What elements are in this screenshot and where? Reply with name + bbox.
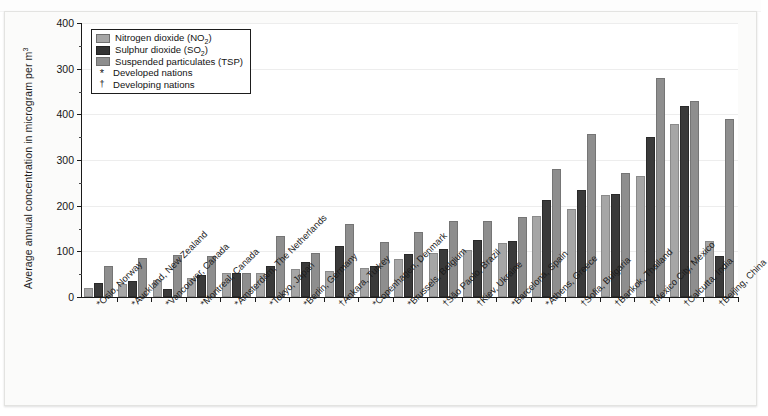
- figure-card: Average annual concentration in microgra…: [4, 11, 757, 406]
- legend-swatch-tsp: [96, 57, 110, 66]
- y-axis-title-exponent: 3: [22, 48, 29, 52]
- legend-item: Sulphur dioxide (SO2): [96, 44, 243, 55]
- y-axis-tick-label: 100: [40, 245, 74, 257]
- legend-item-label: Suspended particulates (TSP): [115, 56, 243, 67]
- legend-item-label: Developing nations: [113, 79, 195, 90]
- bar-group[interactable]: [705, 23, 734, 297]
- x-axis-labels: Oslo, Norway*Auckland, New Zealand*Vanco…: [5, 297, 758, 405]
- bar-tsp[interactable]: [587, 134, 596, 297]
- y-axis-title-text: Average annual concentration in microgra…: [22, 52, 34, 289]
- legend-item-label: Sulphur dioxide (SO2): [115, 44, 208, 57]
- chart-legend: Nitrogen dioxide (NO2)Sulphur dioxide (S…: [91, 29, 251, 94]
- y-axis-title: Average annual concentration in microgra…: [22, 33, 35, 303]
- legend-item: †Developing nations: [96, 79, 243, 90]
- bar-so2[interactable]: [542, 200, 551, 297]
- bar-tsp[interactable]: [621, 173, 630, 297]
- y-axis-tick-label: 400: [40, 108, 74, 120]
- legend-asterisk-icon: *: [96, 69, 108, 77]
- y-axis-tick-label: 300: [40, 154, 74, 166]
- bar-no2[interactable]: [84, 288, 93, 297]
- bar-group[interactable]: [498, 23, 527, 297]
- legend-item: Suspended particulates (TSP): [96, 56, 243, 67]
- bar-group[interactable]: [291, 23, 320, 297]
- bar-tsp[interactable]: [552, 169, 561, 297]
- legend-swatch-so2: [96, 46, 110, 55]
- legend-item: *Developed nations: [96, 67, 243, 78]
- y-axis-tick-label: 300: [40, 63, 74, 75]
- y-axis-tick-label: 400: [40, 17, 74, 29]
- legend-dagger-icon: †: [96, 79, 108, 89]
- y-axis-tick-label: 200: [40, 200, 74, 212]
- legend-swatch-no2: [96, 34, 110, 43]
- legend-item-label: Developed nations: [113, 67, 192, 78]
